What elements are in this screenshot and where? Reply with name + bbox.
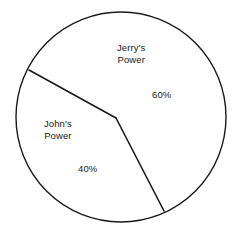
slice-label-line2: Power: [117, 54, 145, 66]
pie-chart-graphic: [0, 0, 239, 235]
slice-value-johns-power: 40%: [78, 163, 97, 175]
slice-label-line1: Jerry's: [117, 42, 145, 54]
slice-value-jerrys-power: 60%: [152, 89, 171, 101]
slice-label-jerrys-power: Jerry's Power: [117, 42, 145, 66]
slice-label-line2: Power: [44, 130, 72, 142]
slice-label-line1: John's: [44, 118, 72, 130]
pie-chart-figure: Jerry's Power 60% John's Power 40%: [0, 0, 239, 235]
slice-label-johns-power: John's Power: [44, 118, 72, 142]
